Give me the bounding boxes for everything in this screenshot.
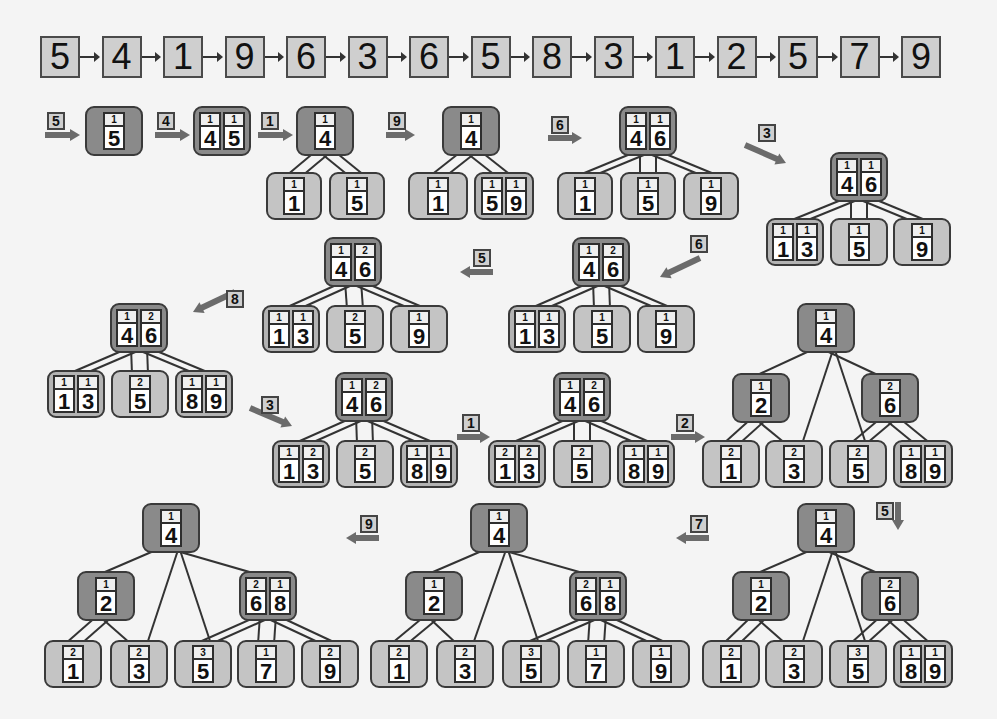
- leaf-node: 23: [765, 440, 823, 488]
- tree-edge: [802, 547, 834, 644]
- key-cell: 18: [406, 445, 428, 483]
- key-cell: 17: [585, 645, 607, 683]
- internal-node: 2618: [239, 571, 297, 621]
- internal-node: 2618: [569, 571, 627, 621]
- step-arrowhead-icon: [892, 520, 904, 530]
- key-cell: 12: [423, 577, 445, 615]
- internal-node: 1426: [553, 372, 611, 422]
- key-value: 4: [817, 524, 835, 547]
- leaf-node: 19: [637, 305, 695, 353]
- internal-node: 14: [296, 106, 354, 156]
- step-arrowhead-icon: [460, 266, 470, 278]
- key-cell: 11: [427, 177, 449, 215]
- key-cell: 14: [341, 378, 363, 416]
- key-value: 9: [926, 460, 944, 483]
- key-value: 4: [201, 127, 219, 150]
- leaf-node: 25: [829, 440, 887, 488]
- key-value: 8: [271, 592, 289, 615]
- insert-key-label: 5: [876, 502, 894, 520]
- key-cell: 35: [520, 645, 542, 683]
- step-arrowhead-icon: [180, 129, 190, 141]
- key-value: 6: [367, 393, 385, 416]
- sequence-arrow-icon: [449, 56, 467, 58]
- internal-node: 14: [797, 303, 855, 353]
- sequence-arrow-icon: [818, 56, 836, 58]
- step-arrowhead-icon: [676, 532, 686, 544]
- step-arrowhead-icon: [280, 417, 292, 428]
- key-value: 1: [270, 325, 288, 348]
- key-cell: 35: [192, 645, 214, 683]
- leaf-node: 19: [632, 640, 690, 688]
- leaf-node: 15: [830, 218, 888, 266]
- key-value: 5: [850, 238, 868, 261]
- key-cell: 18: [900, 645, 922, 683]
- key-value: 4: [580, 258, 598, 281]
- internal-node: 1416: [619, 106, 677, 156]
- key-cell: 26: [879, 379, 901, 417]
- key-value: 6: [585, 393, 603, 416]
- key-cell: 16: [649, 112, 671, 150]
- key-value: 5: [522, 660, 540, 683]
- key-cell: 19: [911, 223, 933, 261]
- sequence-item: 5: [40, 36, 80, 78]
- leaf-node: 2123: [488, 440, 546, 488]
- key-cell: 23: [783, 645, 805, 683]
- key-cell: 14: [815, 509, 837, 547]
- key-value: 9: [649, 460, 667, 483]
- key-cell: 14: [815, 309, 837, 347]
- leaf-node: 35: [502, 640, 560, 688]
- key-value: 5: [348, 192, 366, 215]
- key-cell: 21: [388, 645, 410, 683]
- key-value: 1: [576, 192, 594, 215]
- key-cell: 21: [62, 645, 84, 683]
- key-cell: 26: [602, 243, 624, 281]
- step-arrowhead-icon: [283, 129, 293, 141]
- key-cell: 12: [750, 379, 772, 417]
- sequence-arrow-icon: [203, 56, 221, 58]
- internal-node: 1426: [110, 303, 168, 353]
- leaf-node: 35: [174, 640, 232, 688]
- leaf-node: 11: [408, 172, 468, 220]
- insert-key-label: 4: [157, 112, 175, 130]
- sequence-item: 3: [594, 36, 634, 78]
- sequence-arrow-icon: [880, 56, 898, 58]
- insert-key-label: 6: [551, 116, 569, 134]
- internal-node: 14: [797, 503, 855, 553]
- step-arrowhead-icon: [480, 431, 490, 443]
- key-value: 1: [516, 325, 534, 348]
- sequence-item: 5: [778, 36, 818, 78]
- key-value: 6: [862, 173, 880, 196]
- key-cell: 25: [129, 375, 151, 413]
- insert-key-label: 2: [676, 414, 694, 432]
- key-value: 3: [785, 460, 803, 483]
- leaf-node: 25: [553, 440, 611, 488]
- internal-node: 1426: [335, 372, 393, 422]
- key-cell: 14: [488, 509, 510, 547]
- sequence-item: 5: [471, 36, 511, 78]
- leaf-node: 1123: [272, 440, 330, 488]
- key-cell: 19: [430, 445, 452, 483]
- key-cell: 13: [77, 375, 99, 413]
- step-arrowhead-icon: [572, 132, 582, 144]
- sequence-item: 7: [840, 36, 880, 78]
- sequence-arrow-icon: [142, 56, 160, 58]
- key-cell: 25: [344, 310, 366, 348]
- key-value: 9: [702, 192, 720, 215]
- key-cell: 25: [571, 445, 593, 483]
- internal-node: 12: [732, 571, 790, 621]
- key-cell: 18: [623, 445, 645, 483]
- key-cell: 19: [647, 445, 669, 483]
- sequence-arrow-icon: [572, 56, 590, 58]
- internal-node: 1426: [324, 237, 382, 287]
- insert-key-label: 7: [690, 515, 708, 533]
- key-cell: 11: [278, 445, 300, 483]
- leaf-node: 11: [266, 172, 322, 220]
- key-value: 8: [601, 592, 619, 615]
- leaf-node: 15: [329, 172, 385, 220]
- insert-key-label: 9: [388, 112, 406, 130]
- leaf-node: 15: [573, 305, 631, 353]
- key-cell: 21: [494, 445, 516, 483]
- key-value: 5: [105, 127, 123, 150]
- sequence-arrow-icon: [695, 56, 713, 58]
- key-cell: 18: [269, 577, 291, 615]
